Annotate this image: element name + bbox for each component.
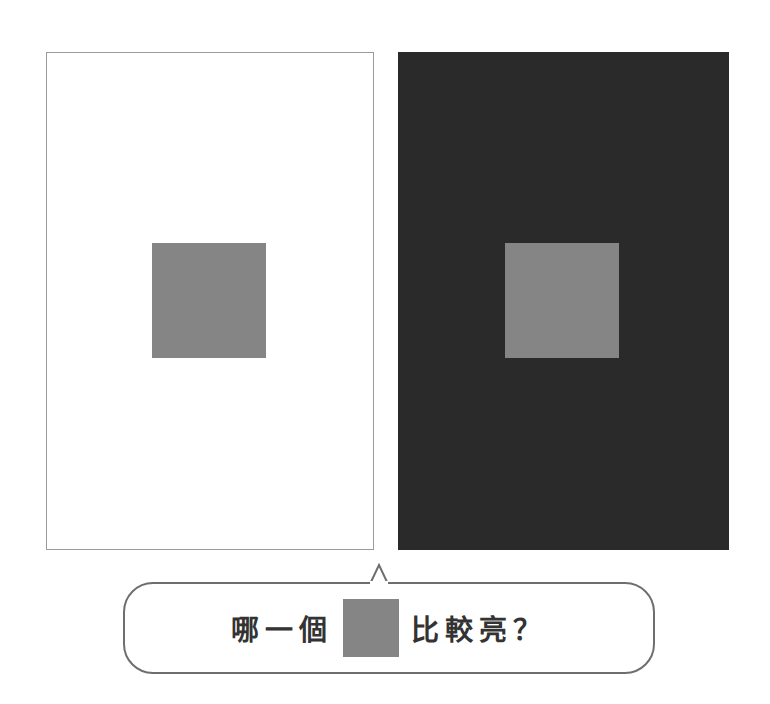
question-speech-bubble: 哪一個 比較亮？ <box>123 582 655 674</box>
question-prefix: 哪一個 <box>231 608 333 648</box>
question-suffix: 比較亮？ <box>411 608 547 648</box>
gray-swatch <box>343 599 399 657</box>
light-background-panel <box>46 52 374 550</box>
dark-background-panel <box>398 52 729 550</box>
gray-square-on-black <box>505 243 619 358</box>
gray-square-on-white <box>152 243 266 358</box>
pointer-gap-cover <box>368 581 390 587</box>
